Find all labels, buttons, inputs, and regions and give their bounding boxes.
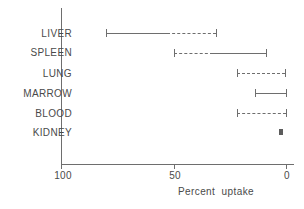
interval-row-liver <box>0 27 304 39</box>
interval-segment-liver-1 <box>167 33 217 34</box>
interval-segment-blood-0 <box>237 113 287 114</box>
percent-uptake-chart: 100 50 0 LIVER SPLEEN LUNG MARROW BLOOD … <box>0 0 304 209</box>
data-point-kidney <box>279 129 283 135</box>
x-tick-label-100: 100 <box>54 170 72 181</box>
interval-segment-spleen-0 <box>174 53 213 54</box>
interval-cap-spleen-end <box>266 49 267 57</box>
interval-cap-marrow-start <box>255 89 256 97</box>
interval-segment-spleen-1 <box>213 53 266 54</box>
interval-cap-liver-end <box>216 29 217 37</box>
interval-row-marrow <box>0 87 304 99</box>
interval-row-kidney <box>0 126 304 138</box>
interval-cap-blood-end <box>286 109 287 117</box>
x-tick-label-0: 0 <box>284 170 290 181</box>
interval-row-spleen <box>0 47 304 59</box>
interval-segment-liver-0 <box>106 33 167 34</box>
interval-segment-lung-0 <box>237 73 285 74</box>
interval-cap-blood-start <box>237 109 238 117</box>
interval-segment-marrow-0 <box>255 93 287 94</box>
x-tick-label-50: 50 <box>169 170 181 181</box>
x-tick-50 <box>174 165 175 169</box>
interval-cap-spleen-start <box>174 49 175 57</box>
interval-cap-lung-end <box>285 69 286 77</box>
interval-cap-lung-start <box>237 69 238 77</box>
x-axis-title: Percent uptake <box>178 186 254 198</box>
x-tick-0 <box>286 165 287 169</box>
interval-cap-marrow-end <box>286 89 287 97</box>
interval-row-blood <box>0 107 304 119</box>
interval-row-lung <box>0 67 304 79</box>
interval-cap-liver-start <box>106 29 107 37</box>
x-axis-line <box>61 164 294 165</box>
x-tick-100 <box>61 165 62 169</box>
